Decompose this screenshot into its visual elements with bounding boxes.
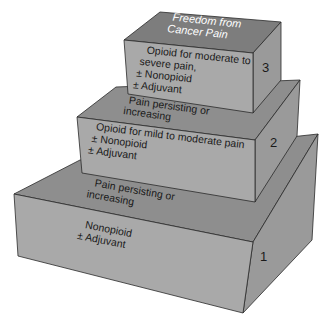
step-1-number: 1 [260,249,267,264]
pyramid-svg: Freedom from Cancer Pain Opioid for mode… [0,0,329,322]
step-3-number: 3 [262,60,269,75]
analgesic-ladder-diagram: Freedom from Cancer Pain Opioid for mode… [0,0,329,322]
step-2-number: 2 [270,135,277,150]
